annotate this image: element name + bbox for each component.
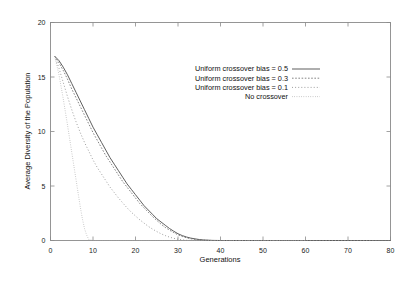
x-tick-label: 70 bbox=[344, 247, 352, 254]
x-tick-label: 20 bbox=[132, 247, 140, 254]
legend-label: Uniform crossover bias = 0.5 bbox=[195, 64, 288, 73]
chart-background bbox=[0, 0, 416, 282]
line-chart: 01020304050607080 05101520 Generations A… bbox=[0, 0, 416, 282]
y-tick-label: 5 bbox=[42, 183, 46, 190]
x-tick-label: 60 bbox=[302, 247, 310, 254]
chart-figure: 01020304050607080 05101520 Generations A… bbox=[0, 0, 416, 282]
x-tick-label: 10 bbox=[89, 247, 97, 254]
y-tick-label: 15 bbox=[38, 74, 46, 81]
x-axis-title: Generations bbox=[200, 255, 241, 264]
x-tick-label: 30 bbox=[174, 247, 182, 254]
y-tick-label: 20 bbox=[38, 19, 46, 26]
y-tick-label: 0 bbox=[42, 237, 46, 244]
legend-label: No crossover bbox=[245, 92, 289, 101]
y-tick-label: 10 bbox=[38, 128, 46, 135]
x-tick-label: 0 bbox=[49, 247, 53, 254]
legend-label: Uniform crossover bias = 0.3 bbox=[195, 74, 288, 83]
x-tick-label: 40 bbox=[217, 247, 225, 254]
legend-label: Uniform crossover bias = 0.1 bbox=[195, 83, 288, 92]
x-tick-label: 80 bbox=[387, 247, 395, 254]
x-tick-label: 50 bbox=[259, 247, 267, 254]
y-axis-title: Average Diversity of the Population bbox=[23, 72, 32, 189]
